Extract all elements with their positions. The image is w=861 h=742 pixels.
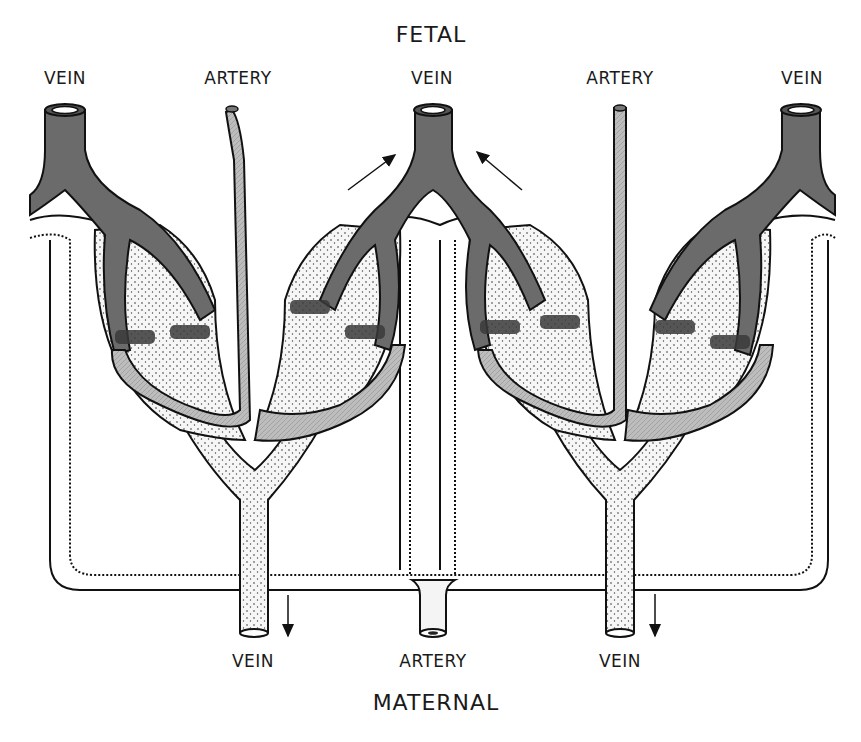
maternal-vein-label-right: VEIN <box>599 651 641 671</box>
arrow-up-left-icon <box>477 152 522 190</box>
fetal-artery-label-right: ARTERY <box>586 68 653 88</box>
maternal-artery <box>412 580 455 637</box>
maternal-vein-label-left: VEIN <box>232 651 274 671</box>
maternal-title: MATERNAL <box>373 690 500 715</box>
fetal-artery-label-left: ARTERY <box>204 68 271 88</box>
fetal-vein-label-left: VEIN <box>44 68 86 88</box>
arrow-up-right-icon <box>348 155 395 190</box>
fetal-vein-label-center: VEIN <box>411 68 453 88</box>
placenta-circulation-diagram <box>0 0 861 742</box>
fetal-title: FETAL <box>396 22 467 47</box>
fetal-vein-label-right: VEIN <box>781 68 823 88</box>
maternal-artery-label: ARTERY <box>399 651 466 671</box>
